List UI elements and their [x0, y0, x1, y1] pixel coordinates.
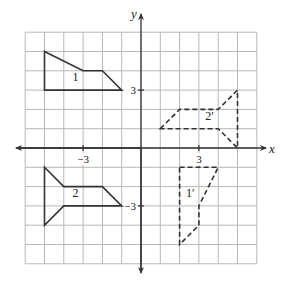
figure-label: 1′ [186, 186, 195, 200]
y-tick-label: −3 [124, 200, 136, 212]
figure-label: 2′ [205, 109, 214, 123]
y-tick-label: 3 [131, 84, 137, 96]
figure-label: 1 [72, 70, 78, 84]
x-tick-label: 3 [196, 153, 202, 165]
coordinate-plane: xy−333−3121′2′ [0, 0, 286, 284]
y-axis-label: y [129, 6, 137, 21]
axes [16, 14, 266, 273]
x-axis-label: x [268, 141, 275, 156]
x-tick-label: −3 [77, 153, 89, 165]
figure-label: 2 [72, 186, 78, 200]
